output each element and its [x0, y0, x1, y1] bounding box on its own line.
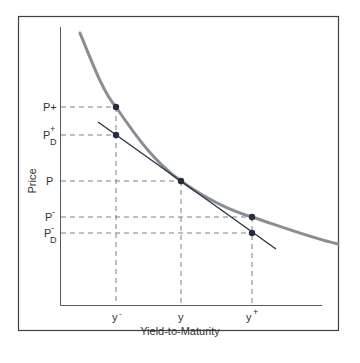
point-y-minus-pd-plus [113, 132, 119, 138]
x-axis-title: Yield-to-Maturity [140, 325, 220, 337]
label-pd-minus: P - D [44, 223, 57, 245]
svg-text:+: + [253, 307, 258, 317]
figure-frame [19, 17, 339, 331]
label-p-minus: P - [45, 207, 55, 223]
price-yield-curve [80, 33, 338, 244]
duration-tangent-line [98, 122, 276, 249]
label-p: P [46, 175, 53, 187]
svg-text:-: - [52, 207, 55, 217]
point-y-plus-p-minus [249, 214, 255, 220]
svg-text:D: D [50, 137, 57, 147]
point-y-p [178, 178, 184, 184]
point-y-minus-p-plus [113, 104, 119, 110]
y-axis-title: Price [26, 168, 38, 193]
svg-text:D: D [50, 235, 57, 245]
label-y-plus: y + [246, 307, 258, 323]
data-points [113, 104, 255, 236]
svg-text:-: - [51, 223, 54, 233]
point-y-plus-pd-minus [249, 230, 255, 236]
label-y-minus: y - [112, 309, 122, 323]
svg-text:+: + [50, 124, 55, 134]
svg-text:y: y [112, 311, 118, 323]
label-y: y [178, 311, 184, 323]
svg-text:y: y [246, 311, 252, 323]
label-pd-plus: P + D [43, 124, 57, 147]
price-yield-diagram: P+ P + D P P - P - D Price y - y y + Yie… [0, 0, 360, 363]
label-p-plus: P+ [43, 101, 57, 113]
svg-text:-: - [119, 309, 122, 318]
